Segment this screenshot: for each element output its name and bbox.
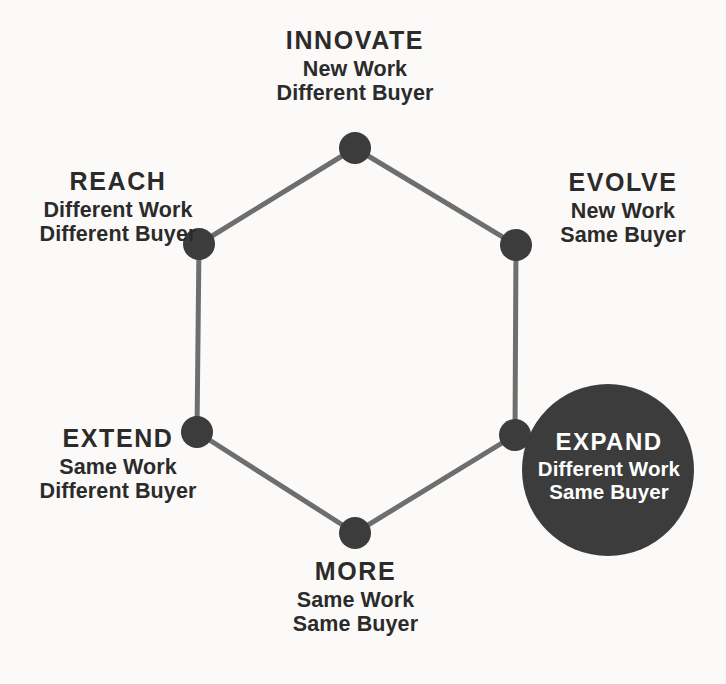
- node-sub1-extend: Same Work: [18, 455, 218, 479]
- node-dot-innovate[interactable]: [339, 132, 371, 164]
- node-sub2-reach: Different Buyer: [18, 222, 218, 246]
- edge-extend-reach: [197, 244, 199, 432]
- node-label-reach[interactable]: REACH Different Work Different Buyer: [18, 167, 218, 246]
- node-dot-more[interactable]: [339, 517, 371, 549]
- node-sub1-more: Same Work: [238, 588, 473, 612]
- node-sub2-more: Same Buyer: [238, 612, 473, 636]
- edge-more-extend: [197, 432, 355, 533]
- hexagon-edges: [197, 148, 516, 533]
- node-sub1-evolve: New Work: [528, 199, 718, 223]
- node-title-expand: EXPAND: [523, 429, 695, 456]
- node-title-evolve: EVOLVE: [528, 168, 718, 196]
- node-title-innovate: INNOVATE: [235, 26, 475, 54]
- edge-evolve-expand: [515, 245, 516, 435]
- edge-reach-innovate: [199, 148, 355, 244]
- node-title-extend: EXTEND: [18, 424, 218, 452]
- growth-hexagon-diagram: INNOVATE New Work Different Buyer REACH …: [0, 0, 726, 684]
- node-title-reach: REACH: [18, 167, 218, 195]
- node-sub2-evolve: Same Buyer: [528, 223, 718, 247]
- node-label-innovate[interactable]: INNOVATE New Work Different Buyer: [235, 26, 475, 105]
- node-sub1-innovate: New Work: [235, 57, 475, 81]
- node-sub1-expand: Different Work: [523, 458, 695, 481]
- node-label-extend[interactable]: EXTEND Same Work Different Buyer: [18, 424, 218, 503]
- node-label-more[interactable]: MORE Same Work Same Buyer: [238, 557, 473, 636]
- node-label-evolve[interactable]: EVOLVE New Work Same Buyer: [528, 168, 718, 247]
- edge-innovate-evolve: [355, 148, 516, 245]
- node-sub1-reach: Different Work: [18, 198, 218, 222]
- node-sub2-expand: Same Buyer: [523, 481, 695, 504]
- node-sub2-extend: Different Buyer: [18, 479, 218, 503]
- node-sub2-innovate: Different Buyer: [235, 81, 475, 105]
- node-title-more: MORE: [238, 557, 473, 585]
- node-label-expand[interactable]: EXPAND Different Work Same Buyer: [523, 429, 695, 504]
